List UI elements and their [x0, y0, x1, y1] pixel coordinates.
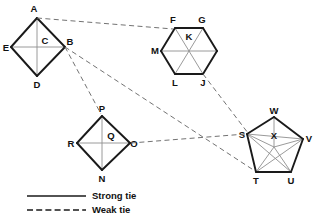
node-label-q: Q	[107, 130, 114, 141]
strong-tie-m-f	[161, 28, 175, 51]
weak-tie-b-t	[65, 47, 255, 171]
node-label-b: B	[67, 36, 74, 47]
inner-tie-t-x	[256, 147, 274, 172]
node-label-a: A	[31, 3, 38, 14]
node-label-l: L	[172, 77, 178, 88]
node-label-f: F	[170, 14, 176, 25]
cluster-stuvwx: W V U T S X	[239, 105, 313, 186]
strong-tie-e-d	[11, 47, 37, 76]
weak-tie-j-s	[203, 74, 248, 133]
legend: Strong tie Weak tie	[27, 190, 136, 215]
strong-tie-r-n	[77, 143, 102, 170]
strong-tie-o-n	[102, 143, 130, 170]
weak-tie-o-s	[131, 134, 246, 143]
node-label-u: U	[288, 175, 295, 186]
node-label-r: R	[68, 138, 75, 149]
node-label-v: V	[306, 133, 313, 144]
legend-weak-tie-label: Weak tie	[92, 204, 130, 215]
node-label-c: C	[42, 35, 49, 46]
strong-tie-b-d	[37, 47, 65, 76]
node-label-w: W	[270, 105, 279, 116]
strong-tie-p-o	[102, 116, 130, 143]
strong-tie-p-r	[77, 116, 102, 143]
weak-tie-b-p	[65, 47, 101, 114]
strong-tie-v-u	[291, 139, 303, 172]
node-label-t: T	[253, 175, 259, 186]
inner-tie-s-u	[247, 134, 291, 172]
node-label-j: J	[200, 77, 205, 88]
weak-tie-a-f	[37, 18, 173, 29]
node-label-d: D	[34, 79, 41, 90]
strong-tie-w-v	[274, 117, 303, 139]
strong-tie-l-m	[161, 51, 175, 74]
cluster-nopqr: P O Q N R	[68, 103, 138, 184]
inner-ties-abcde	[11, 18, 65, 76]
cluster-fgjklm: F G J L M K	[151, 14, 217, 88]
node-label-x: X	[271, 130, 278, 141]
strong-tie-a-e	[11, 18, 37, 47]
node-label-p: P	[99, 103, 106, 114]
node-label-o: O	[130, 138, 137, 149]
node-label-e: E	[3, 42, 9, 53]
node-label-m: M	[151, 45, 159, 56]
inner-ties-nopqr	[77, 116, 130, 170]
inner-tie-v-x	[274, 139, 303, 147]
inner-tie-t-v	[256, 139, 303, 172]
node-label-n: N	[99, 173, 106, 184]
legend-strong-tie-label: Strong tie	[92, 190, 136, 201]
strong-tie-h-j	[203, 51, 217, 74]
strong-tie-g-h	[203, 28, 217, 51]
network-canvas: A B C D E F G J L M	[0, 0, 323, 224]
cluster-abcde: A B C D E	[3, 3, 74, 90]
network-diagram: A B C D E F G J L M	[0, 0, 323, 224]
node-label-k: K	[186, 31, 193, 42]
node-label-g: G	[198, 14, 205, 25]
